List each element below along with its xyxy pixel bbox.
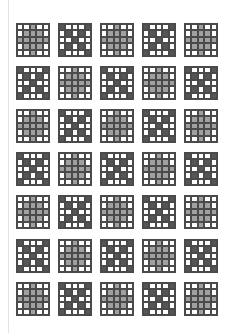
quilt-block-x-pattern [184, 239, 218, 273]
quilt-cell [43, 93, 49, 99]
quilt-cell [127, 222, 133, 228]
quilt-block-plus-pattern [100, 195, 134, 229]
quilt-cell [85, 93, 91, 99]
quilt-cell [211, 136, 217, 142]
quilt-cell [211, 309, 217, 315]
quilt-block-x-pattern [58, 195, 92, 229]
quilt-cell [43, 222, 49, 228]
quilt-block-x-pattern [100, 239, 134, 273]
quilt-block-plus-pattern [100, 109, 134, 143]
quilt-cell [85, 309, 91, 315]
quilt-block-x-pattern [58, 109, 92, 143]
quilt-block-x-pattern [184, 152, 218, 186]
quilt-cell [169, 222, 175, 228]
quilt-block-plus-pattern [58, 66, 92, 100]
quilt-block-x-pattern [142, 109, 176, 143]
quilt-block-x-pattern [16, 239, 50, 273]
quilt-cell [43, 266, 49, 272]
quilt-block-plus-pattern [58, 152, 92, 186]
quilt-cell [169, 50, 175, 56]
quilt-cell [127, 309, 133, 315]
quilt-cell [127, 266, 133, 272]
quilt-cell [127, 136, 133, 142]
quilt-cell [85, 179, 91, 185]
quilt-cell [43, 309, 49, 315]
quilt-cell [211, 179, 217, 185]
quilt-cell [211, 50, 217, 56]
quilt-block-x-pattern [142, 195, 176, 229]
quilt-block-x-pattern [58, 23, 92, 57]
quilt-block-plus-pattern [142, 239, 176, 273]
quilt-block-x-pattern [58, 282, 92, 316]
quilt-block-x-pattern [16, 66, 50, 100]
quilt-cell [169, 266, 175, 272]
quilt-block-plus-pattern [142, 66, 176, 100]
quilt-cell [85, 222, 91, 228]
quilt-block-x-pattern [100, 152, 134, 186]
quilt-block-x-pattern [184, 66, 218, 100]
quilt-cell [85, 266, 91, 272]
quilt-cell [169, 179, 175, 185]
quilt-cell [169, 309, 175, 315]
quilt-block-x-pattern [100, 66, 134, 100]
quilt-block-plus-pattern [100, 23, 134, 57]
quilt-block-x-pattern [142, 23, 176, 57]
quilt-cell [85, 136, 91, 142]
quilt-block-plus-pattern [184, 282, 218, 316]
quilt-cell [127, 93, 133, 99]
page-edge-line [8, 0, 9, 333]
quilt-block-plus-pattern [184, 23, 218, 57]
quilt-block-x-pattern [142, 282, 176, 316]
quilt-cell [211, 93, 217, 99]
quilt-block-plus-pattern [58, 239, 92, 273]
quilt-cell [211, 266, 217, 272]
quilt-block-x-pattern [16, 152, 50, 186]
quilt-cell [85, 50, 91, 56]
quilt-cell [43, 179, 49, 185]
quilt-cell [169, 93, 175, 99]
quilt-block-plus-pattern [16, 195, 50, 229]
quilt-block-plus-pattern [184, 195, 218, 229]
quilt-block-plus-pattern [100, 282, 134, 316]
quilt-block-plus-pattern [142, 152, 176, 186]
quilt-block-plus-pattern [16, 282, 50, 316]
quilt-cell [127, 50, 133, 56]
quilt-block-plus-pattern [184, 109, 218, 143]
quilt-cell [43, 136, 49, 142]
quilt-cell [211, 222, 217, 228]
quilt-block-plus-pattern [16, 109, 50, 143]
quilt-cell [127, 179, 133, 185]
quilt-cell [169, 136, 175, 142]
quilt-cell [43, 50, 49, 56]
quilt-block-plus-pattern [16, 23, 50, 57]
